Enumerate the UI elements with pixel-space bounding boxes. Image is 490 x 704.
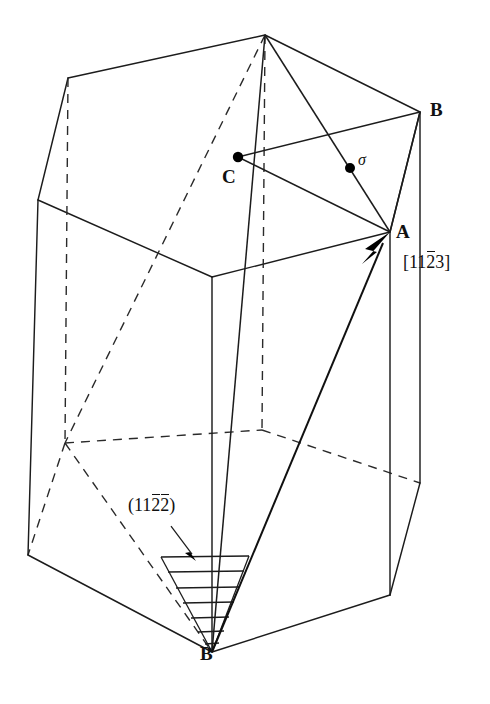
tri-edge-c-b [238,112,420,157]
hatch-line-3 [176,587,239,588]
tri-edge-b-a [390,112,420,232]
slip-direction-vector [212,232,390,652]
crystal-diagram: A B C B′ σ [1123] (1122) [0,0,490,704]
crystal-svg [0,0,490,704]
dashed-backleft-to-bprime [65,443,212,652]
marker-dots [233,152,355,173]
bot-edge-rf-rb [390,483,420,595]
vector-shaft-bprime-to-a [212,243,383,652]
dot-c [233,152,243,162]
pointer-shaft [171,526,192,554]
hatch-line-4 [183,602,234,603]
label-vertex-b-prime: B′ [200,641,217,663]
hatched-plane-trace [161,556,249,652]
label-vertex-a: A [396,222,410,241]
plane-label-pointer [171,526,196,561]
tri-edge-a-c [238,157,390,232]
label-b-prime-mark: ′ [213,640,217,656]
dir-digit-2: 1 [417,252,426,272]
top-edge-apex-rb [265,35,420,112]
dir-close-bracket: ] [444,252,450,272]
dashed-left-back-vertical [65,78,68,443]
hatch-line-5 [191,617,229,618]
plane-digit-3-overbar: 2 [151,496,160,514]
dashed-backleft-to-frontleft [28,443,65,555]
bot-edge-fm-rf [212,595,390,652]
vedge-left [28,200,38,555]
label-slip-direction-index: [1123] [403,253,450,271]
hatch-line-1 [161,556,249,557]
top-edge-left-fl [38,78,68,200]
label-shear-point-sigma: σ [358,152,366,168]
plane-edge-apex-a [265,35,390,232]
plane-digit-2: 1 [142,495,151,515]
hidden-construction-lines [28,35,420,652]
label-vertex-c: C [222,167,236,186]
slip-plane-outline [212,35,390,652]
plane-digit-4-overbar: 2 [160,496,169,514]
top-edge-rf-fm [212,232,390,277]
dot-sigma [345,163,355,173]
label-b-prime-base: B [200,643,213,664]
hatch-line-2 [168,571,244,572]
dashed-central-axis [262,35,265,430]
dashed-backleft-to-backapex [65,430,262,443]
plane-close-paren: ) [169,495,175,515]
label-slip-plane-index: (1122) [128,496,175,514]
top-edge-fl-apex [68,35,265,78]
triangle-cba [238,112,420,232]
top-edge-fm-left [38,200,212,277]
label-vertex-b: B [430,100,443,119]
dir-digit-3-overbar: 2 [426,253,435,271]
pointer-arrowhead [185,546,196,561]
dir-digit-4: 3 [435,252,444,272]
